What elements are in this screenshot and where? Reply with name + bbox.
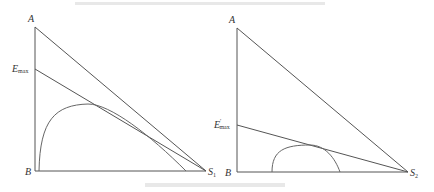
- right-curve: [272, 145, 340, 172]
- right-hypotenuse-AS2: [237, 28, 408, 172]
- left-label-S: S1: [208, 166, 216, 178]
- bottom-caption-faint: [145, 183, 285, 187]
- top-caption-faint: [75, 2, 325, 5]
- right-label-S: S2: [410, 167, 418, 179]
- diagram-canvas: A B S1 Emax A B S2 E′max: [0, 0, 434, 192]
- left-emax-tangent-line: [35, 69, 206, 171]
- right-panel: A B S2 E′max: [213, 14, 418, 179]
- left-label-A: A: [27, 13, 35, 24]
- left-curve: [39, 104, 186, 171]
- left-panel: A B S1 Emax: [11, 13, 216, 178]
- right-label-B: B: [225, 167, 231, 178]
- left-hypotenuse-AS1: [35, 27, 206, 171]
- left-label-emax: Emax: [11, 63, 28, 74]
- right-label-A: A: [228, 14, 236, 25]
- left-label-B: B: [25, 166, 31, 177]
- right-label-emax-prime: E′max: [213, 118, 230, 130]
